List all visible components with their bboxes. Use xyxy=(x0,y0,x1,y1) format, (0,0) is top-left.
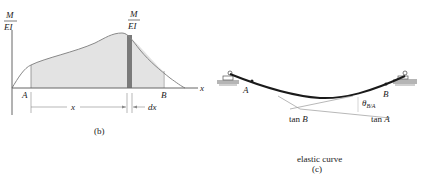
differential-strip xyxy=(127,35,132,88)
point-b-marker xyxy=(385,83,388,86)
point-a-label: A xyxy=(21,90,28,100)
tangent-at-a-extension xyxy=(278,96,300,109)
moment-diagram-panel: M EI M EI x A B x dx (b) xyxy=(3,9,204,136)
y-axis-label-denominator: EI xyxy=(3,22,13,32)
x-axis-label: x xyxy=(199,83,204,93)
moment-area-fill xyxy=(31,33,163,88)
dim-dx-arrow xyxy=(133,106,137,109)
elastic-curve-panel: A B θB/A tan B tan A elastic curve (c) xyxy=(217,71,417,174)
point-a-marker xyxy=(251,80,254,83)
tan-a-label: tan A xyxy=(371,114,390,124)
elastic-curve-caption: elastic curve xyxy=(297,154,342,164)
right-roller-support xyxy=(393,71,417,86)
curve-point-b-label: B xyxy=(383,89,389,99)
dim-dx-label: dx xyxy=(148,102,157,112)
elastic-curve-beam xyxy=(230,74,405,98)
y-axis-label-numerator: M xyxy=(5,10,14,20)
curve-point-a-label: A xyxy=(242,85,249,95)
theta-label: θB/A xyxy=(362,98,376,109)
panel-b-caption: (b) xyxy=(94,126,105,136)
strip-label-denominator: EI xyxy=(127,21,137,31)
dim-x-label: x xyxy=(70,102,75,112)
dim-x-arrow xyxy=(122,106,126,109)
strip-label-numerator: M xyxy=(129,9,138,19)
panel-c-caption: (c) xyxy=(312,164,322,174)
tan-b-label: tan B xyxy=(289,114,308,124)
diagram-canvas: M EI M EI x A B x dx (b) xyxy=(0,0,426,175)
left-pin-support xyxy=(217,71,239,86)
point-b-label: B xyxy=(161,90,167,100)
